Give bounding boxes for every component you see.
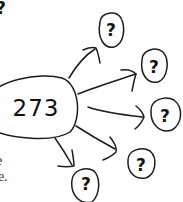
cropped-text-line-1: e bbox=[0, 153, 2, 169]
mind-map-diagram: ? 273 ? ? ? ? bbox=[0, 0, 183, 202]
arrowhead-2-icon bbox=[121, 70, 136, 91]
center-node: 273 bbox=[0, 76, 78, 138]
cropped-question-mark: ? bbox=[0, 0, 6, 18]
branch-node-1-label: ? bbox=[106, 20, 116, 40]
edge-1 bbox=[69, 49, 95, 78]
branch-node-5: ? bbox=[72, 169, 99, 202]
edge-5 bbox=[55, 138, 72, 165]
edge-3 bbox=[88, 107, 143, 117]
branch-node-3: ? bbox=[151, 98, 181, 131]
branch-node-3-label: ? bbox=[160, 106, 170, 126]
edge-4 bbox=[76, 126, 115, 149]
branch-node-4: ? bbox=[128, 149, 155, 178]
branch-node-2: ? bbox=[142, 49, 167, 82]
branch-node-4-label: ? bbox=[136, 155, 146, 175]
edges bbox=[55, 48, 144, 167]
branch-node-1: ? bbox=[99, 13, 123, 47]
branch-node-2-label: ? bbox=[149, 57, 159, 77]
edge-2 bbox=[78, 74, 136, 94]
arrowhead-1-icon bbox=[83, 48, 100, 63]
branch-node-5-label: ? bbox=[81, 174, 91, 194]
cropped-text-line-2: le. bbox=[0, 169, 8, 185]
center-node-label: 273 bbox=[13, 95, 60, 121]
